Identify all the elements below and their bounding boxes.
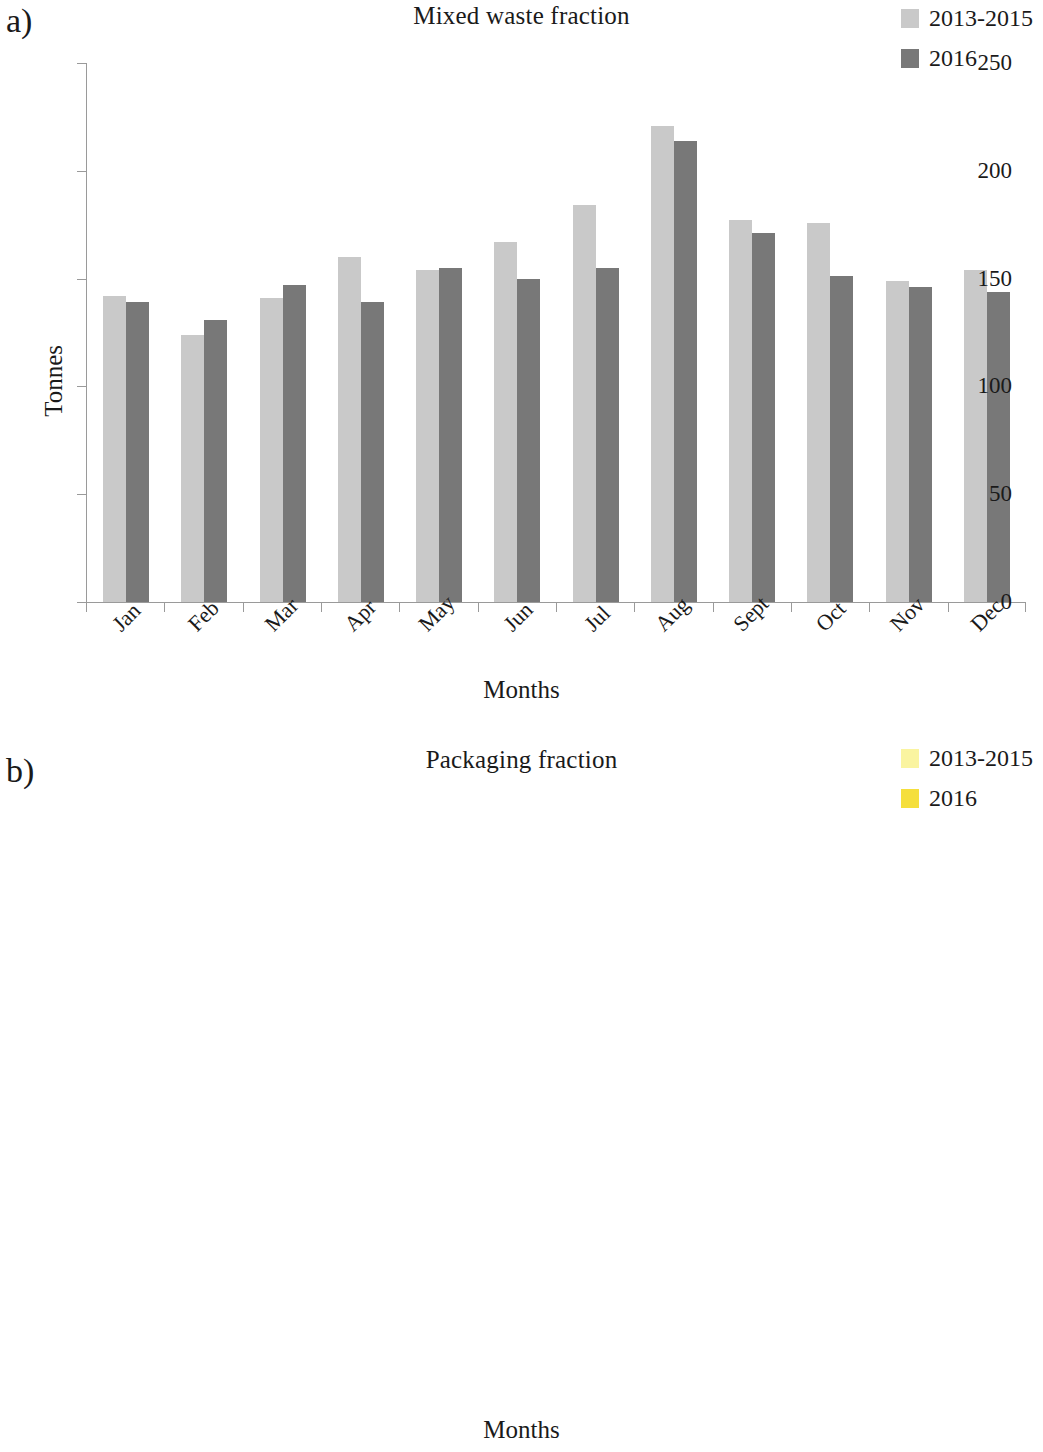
legend-item-2016: 2016 [901, 786, 1033, 810]
legend-label-2013-2015: 2013-2015 [929, 6, 1033, 30]
panel-b-packaging: b) Packaging fraction 2013-2015 2016 Ton… [0, 726, 1043, 1452]
x-tick [478, 603, 479, 612]
bar-mar-2016 [283, 285, 306, 602]
bar-group [87, 63, 165, 602]
x-tick [869, 603, 870, 612]
bar-apr-2013-2015 [338, 257, 361, 602]
x-tick-label-cell: Jul [557, 612, 635, 672]
x-tick [634, 603, 635, 612]
panel-a-mixed-waste: a) Mixed waste fraction 2013-2015 2016 T… [0, 0, 1043, 726]
panel-a-x-axis-title: Months [0, 676, 1043, 704]
bar-group [948, 63, 1026, 602]
bar-sept-2013-2015 [729, 220, 752, 602]
x-tick [556, 603, 557, 612]
x-tick-label-jan: Jan [109, 599, 145, 635]
panel-a-title: Mixed waste fraction [0, 2, 1043, 30]
bar-dec-2016 [987, 292, 1010, 602]
bar-aug-2013-2015 [651, 126, 674, 602]
panel-a-x-tick-labels: JanFebMarAprMayJunJulAugSeptOctNovDec [87, 612, 1027, 672]
bar-mar-2013-2015 [260, 298, 283, 602]
bar-jul-2016 [596, 268, 619, 602]
y-tick [77, 386, 86, 387]
panel-a-plot-area: Tonnes 050100150200250 [86, 63, 1026, 603]
legend-item-2013-2015: 2013-2015 [901, 6, 1033, 30]
bar-group [322, 63, 400, 602]
y-tick-label: 200 [978, 159, 1013, 182]
panel-b-x-axis-title: Months [0, 1416, 1043, 1444]
x-tick [86, 603, 87, 612]
bar-group [478, 63, 556, 602]
bar-jun-2016 [517, 279, 540, 602]
bar-nov-2016 [909, 287, 932, 602]
x-tick-label-cell: Oct [792, 612, 870, 672]
x-tick-label-cell: May [400, 612, 478, 672]
panel-b-title: Packaging fraction [0, 746, 1043, 774]
bar-jan-2016 [126, 302, 149, 602]
x-tick-label-cell: Dec [949, 612, 1027, 672]
x-tick-label-cell: Nov [870, 612, 948, 672]
bar-sept-2016 [752, 233, 775, 602]
x-tick-label-jul: Jul [581, 602, 615, 636]
legend-label-2013-2015: 2013-2015 [929, 746, 1033, 770]
x-tick [791, 603, 792, 612]
bar-apr-2016 [361, 302, 384, 602]
legend-label-2016: 2016 [929, 786, 977, 810]
legend-item-2013-2015: 2013-2015 [901, 746, 1033, 770]
bar-oct-2013-2015 [807, 223, 830, 602]
legend-swatch-2013-2015 [901, 749, 919, 768]
legend-swatch-2016 [901, 789, 919, 808]
bar-may-2016 [439, 268, 462, 602]
x-tick [399, 603, 400, 612]
x-tick [1025, 603, 1026, 612]
bar-group [791, 63, 869, 602]
bar-group [557, 63, 635, 602]
y-tick-label: 50 [989, 482, 1012, 505]
x-tick-label-oct: Oct [812, 598, 850, 636]
x-tick-label-cell: Mar [244, 612, 322, 672]
bar-group [244, 63, 322, 602]
bar-may-2013-2015 [416, 270, 439, 602]
x-tick-label-cell: Jan [87, 612, 165, 672]
y-tick [77, 279, 86, 280]
bar-group [713, 63, 791, 602]
bar-feb-2013-2015 [181, 335, 204, 602]
panel-b-legend: 2013-2015 2016 [901, 746, 1033, 810]
bar-jun-2013-2015 [494, 242, 517, 602]
y-tick [77, 171, 86, 172]
panel-a-y-axis-title: Tonnes [40, 345, 68, 417]
x-tick [164, 603, 165, 612]
bar-oct-2016 [830, 276, 853, 602]
y-tick [77, 602, 86, 603]
legend-swatch-2013-2015 [901, 9, 919, 28]
x-tick-label-cell: Aug [635, 612, 713, 672]
panel-a-bars [87, 63, 1026, 602]
y-tick-label: 250 [978, 51, 1013, 74]
x-tick-label-cell: Jun [479, 612, 557, 672]
bar-group [870, 63, 948, 602]
bar-group [400, 63, 478, 602]
y-tick-label: 150 [978, 267, 1013, 290]
x-tick-label-jun: Jun [499, 598, 536, 635]
x-tick-label-cell: Apr [322, 612, 400, 672]
y-tick-label: 100 [978, 374, 1013, 397]
bar-jan-2013-2015 [103, 296, 126, 602]
x-tick-label-cell: Feb [165, 612, 243, 672]
panel-a-legend: 2013-2015 2016 [901, 6, 1033, 70]
x-tick [243, 603, 244, 612]
x-tick [948, 603, 949, 612]
y-tick [77, 494, 86, 495]
y-tick [77, 63, 86, 64]
bar-jul-2013-2015 [573, 205, 596, 602]
x-tick-label-cell: Sept [714, 612, 792, 672]
bar-aug-2016 [674, 141, 697, 602]
bar-group [165, 63, 243, 602]
bar-dec-2013-2015 [964, 270, 987, 602]
x-tick [321, 603, 322, 612]
bar-nov-2013-2015 [886, 281, 909, 602]
bar-feb-2016 [204, 320, 227, 602]
x-tick [713, 603, 714, 612]
bar-group [635, 63, 713, 602]
